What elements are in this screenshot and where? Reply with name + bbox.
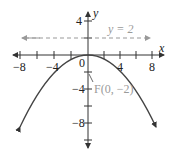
x-tick-label-8: 8 xyxy=(149,60,155,74)
directrix-label: y = 2 xyxy=(107,22,133,36)
y-tick-label-neg8: −8 xyxy=(72,116,85,130)
y-tick-label-4: 4 xyxy=(76,14,82,28)
y-tick-label-neg4: −4 xyxy=(72,82,85,96)
focus-label: F(0, −2) xyxy=(94,82,133,96)
y-axis xyxy=(84,12,92,148)
y-axis-label: y xyxy=(92,6,99,20)
x-tick-label-4: 4 xyxy=(117,60,123,74)
origin-label: 0 xyxy=(79,56,85,70)
parabola-diagram: y x y = 2 4 −4 −8 0 −8 −4 4 8 F(0, −2) xyxy=(0,0,171,156)
focus-pointer xyxy=(89,74,93,82)
x-tick-label-neg4: −4 xyxy=(46,60,59,74)
x-tick-label-neg8: −8 xyxy=(13,60,26,74)
x-axis-label: x xyxy=(158,41,165,55)
